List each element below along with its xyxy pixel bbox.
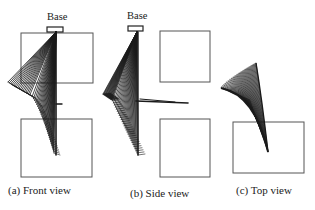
side-view-caption: (b) Side view (130, 188, 189, 199)
side-base-label: Base (127, 11, 147, 22)
top-box (233, 122, 304, 173)
side-base-marker (128, 26, 143, 31)
front-base-marker (47, 27, 63, 32)
figure-canvas (0, 0, 315, 210)
side-lower-box (160, 119, 210, 177)
front-view-caption: (a) Front view (8, 185, 71, 196)
front-arm-sweep (8, 32, 62, 155)
front-view-panel (8, 27, 93, 177)
front-base-label: Base (47, 12, 67, 23)
side-arm-sweep (103, 32, 188, 155)
top-view-caption: (c) Top view (236, 185, 292, 196)
side-upper-box (160, 31, 210, 82)
top-view-panel (221, 63, 304, 173)
side-view-panel (103, 26, 210, 177)
top-arm-sweep (221, 63, 268, 152)
